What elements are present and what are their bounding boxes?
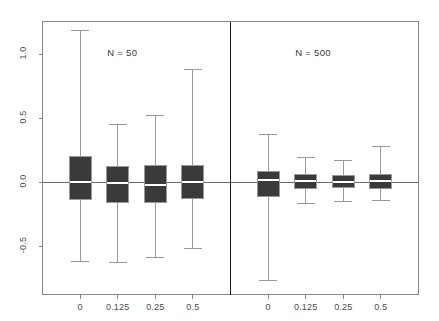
x-axis-tick-label: 0.25: [323, 302, 363, 312]
x-axis-tick-label: 0.125: [98, 302, 138, 312]
boxplot-figure: -0.50.00.51.0N = 5000.1250.250.5N = 5000…: [0, 0, 439, 321]
x-axis-tick-label: 0.25: [135, 302, 175, 312]
x-axis-tick-label: 0.5: [173, 302, 213, 312]
plot-canvas: [0, 0, 439, 321]
boxplot-box: [144, 115, 166, 257]
y-axis-tick-label: -0.5: [18, 230, 28, 260]
x-axis-tick-label: 0.125: [286, 302, 326, 312]
x-axis-tick-label: 0.5: [361, 302, 401, 312]
y-axis-tick-label: 1.0: [18, 38, 28, 68]
panel-label-n500: N = 500: [295, 47, 331, 58]
boxplot-box: [257, 134, 279, 281]
boxplot-box: [370, 147, 392, 201]
y-axis-tick-label: 0.0: [18, 166, 28, 196]
boxplot-box: [295, 157, 317, 203]
box-iqr: [257, 172, 279, 196]
panel-label-n50: N = 50: [107, 47, 137, 58]
boxplot-box: [107, 124, 129, 262]
x-axis-tick-label: 0: [248, 302, 288, 312]
boxplot-box: [332, 160, 354, 201]
y-axis-tick-label: 0.5: [18, 102, 28, 132]
x-axis-tick-label: 0: [60, 302, 100, 312]
box-iqr: [69, 156, 91, 200]
boxplot-box: [182, 69, 204, 248]
boxplot-box: [69, 31, 91, 261]
